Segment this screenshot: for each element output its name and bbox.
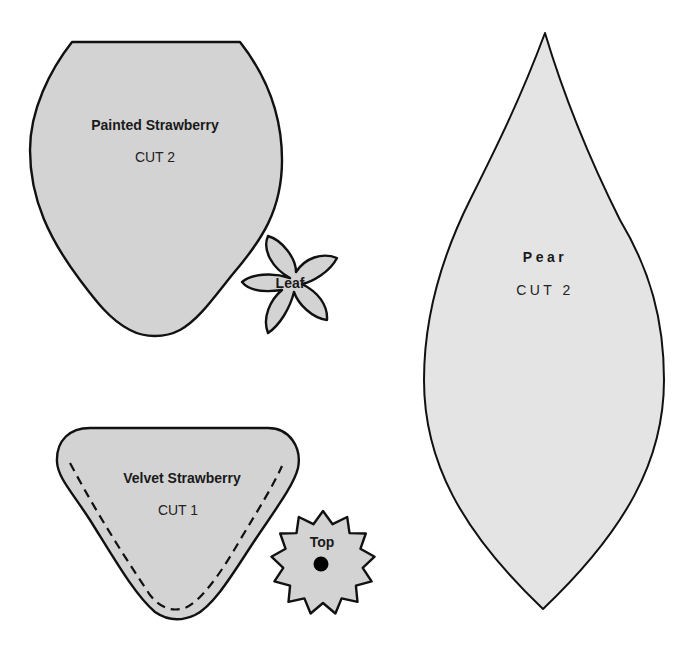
painted-strawberry-outline — [30, 42, 282, 336]
leaf-piece[interactable]: Leaf — [242, 236, 337, 333]
painted-strawberry-cut: CUT 2 — [135, 149, 175, 165]
pear-outline — [424, 33, 664, 609]
pear-piece[interactable]: Pear CUT 2 — [424, 33, 664, 609]
velvet-strawberry-title: Velvet Strawberry — [123, 470, 241, 486]
pattern-sheet: Painted Strawberry CUT 2 Leaf Pear CUT 2… — [0, 0, 686, 650]
painted-strawberry-title: Painted Strawberry — [91, 117, 219, 133]
top-label: Top — [310, 534, 335, 550]
velvet-strawberry-cut: CUT 1 — [158, 502, 198, 518]
pear-cut: CUT 2 — [516, 282, 574, 298]
top-center-hole — [314, 557, 329, 572]
velvet-strawberry-piece[interactable]: Velvet Strawberry CUT 1 — [57, 428, 299, 619]
leaf-label: Leaf — [276, 275, 305, 291]
painted-strawberry-piece[interactable]: Painted Strawberry CUT 2 — [30, 42, 282, 336]
velvet-strawberry-outline — [57, 428, 299, 619]
top-piece[interactable]: Top — [271, 511, 374, 614]
pear-title: Pear — [523, 249, 567, 265]
